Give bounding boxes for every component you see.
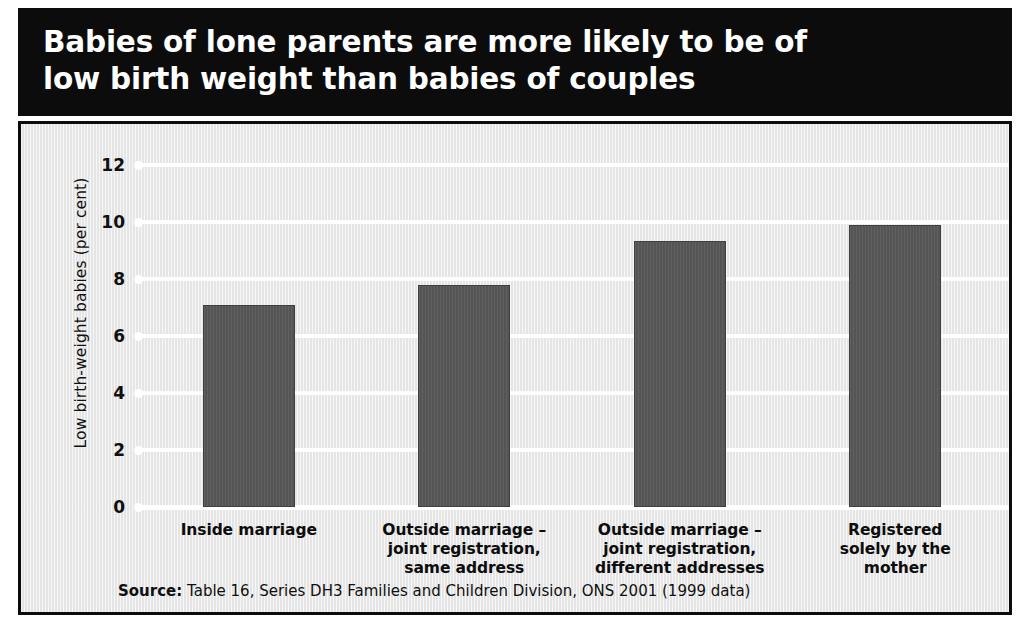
bar	[849, 225, 941, 507]
x-tick-label: Outside marriage – joint registration, s…	[357, 521, 573, 578]
gridline-cap	[134, 503, 143, 512]
gridline-cap	[134, 446, 143, 455]
bar	[418, 285, 510, 507]
y-tick-label: 0	[25, 497, 125, 517]
gridline	[137, 220, 1009, 224]
title-banner: Babies of lone parents are more likely t…	[18, 8, 1012, 116]
source-label: Source:	[118, 582, 182, 600]
plot-area: Low birth-weight babies (per cent) 02468…	[21, 124, 1009, 579]
x-tick-label: Inside marriage	[141, 521, 357, 540]
chart-title: Babies of lone parents are more likely t…	[43, 24, 988, 98]
source-body: Table 16, Series DH3 Families and Childr…	[182, 582, 750, 600]
gridline-cap	[134, 275, 143, 284]
chart-figure: Babies of lone parents are more likely t…	[0, 0, 1030, 629]
y-axis-title: Low birth-weight babies (per cent)	[72, 153, 90, 473]
gridline-cap	[134, 332, 143, 341]
gridline-cap	[134, 389, 143, 398]
gridline-cap	[134, 218, 143, 227]
gridline	[137, 163, 1009, 167]
y-tick-label: 10	[25, 212, 125, 232]
bar	[634, 241, 726, 507]
source-note: Source: Table 16, Series DH3 Families an…	[118, 582, 750, 600]
source-strip: Source: Table 16, Series DH3 Families an…	[21, 573, 1009, 612]
y-tick-label: 12	[25, 155, 125, 175]
bar	[203, 305, 295, 507]
x-tick-label: Registered solely by the mother	[788, 521, 1004, 578]
y-tick-label: 4	[25, 383, 125, 403]
y-tick-label: 2	[25, 440, 125, 460]
y-tick-label: 6	[25, 326, 125, 346]
chart-frame: Low birth-weight babies (per cent) 02468…	[18, 121, 1012, 615]
y-tick-label: 8	[25, 269, 125, 289]
gridline-cap	[134, 161, 143, 170]
x-tick-label: Outside marriage – joint registration, d…	[572, 521, 788, 578]
